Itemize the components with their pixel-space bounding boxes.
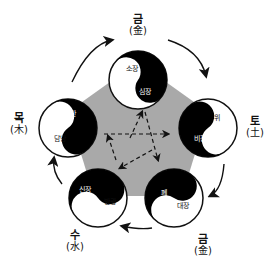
element-korean: 금 <box>190 234 216 246</box>
element-label-bottom-right: 금 (金) <box>190 234 216 256</box>
element-hanja: (金) <box>190 246 216 257</box>
element-korean: 목 <box>6 113 32 125</box>
organ-heart: 심장 <box>139 87 152 96</box>
element-korean: 토 <box>242 116 268 128</box>
organ-stomach: 위 <box>214 114 220 122</box>
organ-small-intestine: 소장 <box>126 64 139 73</box>
organ-bladder: 방광 <box>104 197 117 206</box>
element-korean: 수 <box>62 230 88 242</box>
organ-gallbladder: 담낭 <box>54 134 67 143</box>
five-elements-diagram: 소장 심장 위 비장 폐 대장 신장 방광 간 담낭 <box>0 0 276 276</box>
organ-spleen: 비장 <box>194 134 207 143</box>
element-hanja: (土) <box>242 128 268 139</box>
element-hanja: (金) <box>126 26 150 37</box>
element-label-top: 금 (金) <box>126 14 150 36</box>
organ-lung: 폐 <box>161 188 167 197</box>
element-label-right: 토 (土) <box>242 116 268 138</box>
organ-large-intestine: 대장 <box>177 201 190 210</box>
element-korean: 금 <box>126 14 150 26</box>
organ-liver: 간 <box>70 109 77 118</box>
element-hanja: (木) <box>6 125 32 136</box>
element-hanja: (水) <box>62 242 88 253</box>
element-label-bottom-left: 수 (水) <box>62 230 88 252</box>
element-label-left: 목 (木) <box>6 113 32 135</box>
organ-kidney: 신장 <box>79 185 92 194</box>
